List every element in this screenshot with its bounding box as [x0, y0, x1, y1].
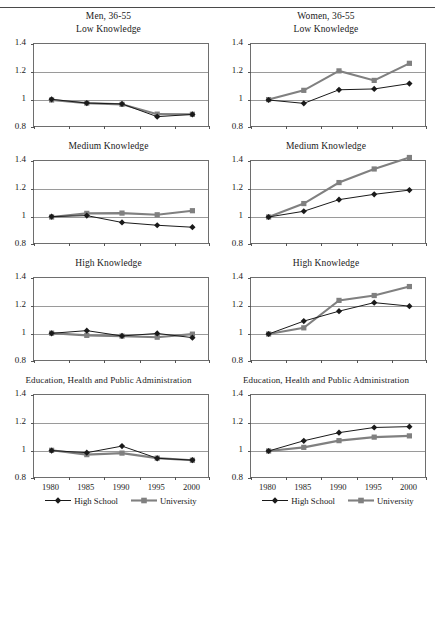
y-axis-tick-label: 0.8	[2, 356, 26, 365]
panel-title: Medium Knowledge	[217, 140, 435, 154]
plot-wrapper: 0.811.21.419801985199019952000	[0, 37, 217, 140]
plot-area	[250, 277, 426, 361]
series-layer	[251, 161, 427, 245]
y-axis-tick-label: 1.2	[219, 183, 243, 192]
y-axis-tick-label: 0.8	[219, 239, 243, 248]
y-axis-tick-label: 1	[2, 328, 26, 337]
x-axis-tick-label: 1980	[42, 482, 59, 492]
chart-panel: Medium Knowledge0.811.21.419801985199019…	[217, 140, 435, 257]
plot-wrapper: 0.811.21.419801985199019952000High Schoo…	[0, 388, 217, 506]
legend-label: University	[159, 496, 197, 507]
y-axis-tick-label: 1	[219, 211, 243, 220]
square-marker-icon	[131, 496, 157, 508]
y-axis-tick-label: 1	[2, 445, 26, 454]
x-axis-labels: 19801985199019952000	[33, 482, 209, 494]
plot-wrapper: 0.811.21.419801985199019952000High Schoo…	[217, 388, 434, 506]
plot-wrapper: 0.811.21.419801985199019952000	[217, 271, 434, 374]
square-marker-icon	[348, 496, 374, 508]
y-axis-tick-label: 0.8	[2, 239, 26, 248]
y-axis-tick-label: 0.8	[219, 473, 243, 482]
y-axis-tick-label: 1.2	[2, 183, 26, 192]
plot-area	[33, 43, 209, 127]
x-axis-tick-label: 1995	[148, 482, 165, 492]
plot-wrapper: 0.811.21.419801985199019952000	[217, 154, 434, 257]
plot-area	[33, 277, 209, 361]
plot-area	[250, 394, 426, 478]
plot-area	[33, 160, 209, 244]
panel-title: Low Knowledge	[0, 23, 217, 37]
y-axis-tick-label: 1.4	[2, 155, 26, 164]
series-layer	[251, 278, 427, 362]
y-axis-tick-label: 0.8	[219, 356, 243, 365]
series-layer	[251, 395, 427, 479]
chart-panel: Low Knowledge0.811.21.419801985199019952…	[217, 23, 435, 140]
x-axis-tick-label: 1985	[294, 482, 311, 492]
x-axis-tick-label: 1980	[259, 482, 276, 492]
y-axis-tick-label: 1.2	[2, 66, 26, 75]
legend-label: University	[376, 496, 414, 507]
legend-item-university: University	[348, 496, 414, 508]
panel-title: Low Knowledge	[217, 23, 435, 37]
panel-title: Medium Knowledge	[0, 140, 217, 154]
series-layer	[251, 44, 427, 128]
series-layer	[34, 44, 210, 128]
panel-title: High Knowledge	[217, 257, 435, 271]
plot-wrapper: 0.811.21.419801985199019952000	[0, 154, 217, 257]
plot-area	[33, 394, 209, 478]
chart-legend: High SchoolUniversity	[33, 496, 209, 508]
y-axis-tick-label: 1.4	[2, 389, 26, 398]
chart-panel: Low Knowledge0.811.21.419801985199019952…	[0, 23, 217, 140]
plot-wrapper: 0.811.21.419801985199019952000	[0, 271, 217, 374]
y-axis-tick-label: 1	[2, 211, 26, 220]
y-axis-tick-label: 1	[219, 94, 243, 103]
series-layer	[34, 161, 210, 245]
y-axis-tick-label: 1	[2, 94, 26, 103]
x-axis-tick-label: 1990	[330, 482, 347, 492]
y-axis-tick-label: 1.4	[2, 272, 26, 281]
column-heading: Women, 36-55	[217, 8, 435, 23]
plot-area	[250, 160, 426, 244]
y-axis-tick-label: 1.4	[219, 38, 243, 47]
legend-item-high-school: High School	[262, 496, 335, 508]
x-axis-tick-label: 1985	[77, 482, 94, 492]
panel-title: Education, Health and Public Administrat…	[217, 374, 435, 388]
plot-area	[250, 43, 426, 127]
legend-label: High School	[290, 496, 335, 507]
x-axis-tick-label: 1995	[365, 482, 382, 492]
y-axis-tick-label: 1	[219, 328, 243, 337]
diamond-marker-icon	[262, 496, 288, 508]
x-axis-tick-label: 2000	[183, 482, 200, 492]
y-axis-tick-label: 1.2	[219, 417, 243, 426]
chart-legend: High SchoolUniversity	[250, 496, 426, 508]
chart-panel: Medium Knowledge0.811.21.419801985199019…	[0, 140, 217, 257]
y-axis-tick-label: 1	[219, 445, 243, 454]
x-axis-tick-label: 1990	[113, 482, 130, 492]
chart-panel: High Knowledge0.811.21.41980198519901995…	[0, 257, 217, 374]
x-axis-labels: 19801985199019952000	[250, 482, 426, 494]
x-axis-tick-label: 2000	[400, 482, 417, 492]
y-axis-tick-label: 0.8	[2, 122, 26, 131]
y-axis-tick-label: 0.8	[219, 122, 243, 131]
series-layer	[34, 278, 210, 362]
y-axis-tick-label: 1.4	[219, 389, 243, 398]
y-axis-tick-label: 1.2	[219, 300, 243, 309]
panel-grid: Men, 36-55Women, 36-55Low Knowledge0.811…	[0, 8, 435, 506]
legend-label: High School	[73, 496, 118, 507]
chart-panel: High Knowledge0.811.21.41980198519901995…	[217, 257, 435, 374]
y-axis-tick-label: 1.4	[219, 272, 243, 281]
series-layer	[34, 395, 210, 479]
legend-item-university: University	[131, 496, 197, 508]
y-axis-tick-label: 1.4	[2, 38, 26, 47]
chart-panel: Education, Health and Public Administrat…	[0, 374, 217, 506]
diamond-marker-icon	[45, 496, 71, 508]
legend-item-high-school: High School	[45, 496, 118, 508]
chart-panel: Education, Health and Public Administrat…	[217, 374, 435, 506]
y-axis-tick-label: 1.2	[2, 417, 26, 426]
column-heading: Men, 36-55	[0, 8, 217, 23]
panel-title: Education, Health and Public Administrat…	[0, 374, 217, 388]
y-axis-tick-label: 0.8	[2, 473, 26, 482]
y-axis-tick-label: 1.4	[219, 155, 243, 164]
y-axis-tick-label: 1.2	[2, 300, 26, 309]
y-axis-tick-label: 1.2	[219, 66, 243, 75]
panel-title: High Knowledge	[0, 257, 217, 271]
